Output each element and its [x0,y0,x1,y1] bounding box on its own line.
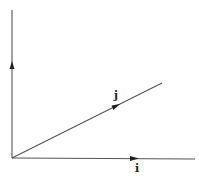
j-vector-line [12,83,162,158]
horizontal-axis [12,158,195,159]
vector-diagram: j i [0,0,199,186]
vertical-axis-arrowhead-icon [10,61,15,69]
horizontal-axis-arrowhead-icon [130,156,139,161]
j-label: j [113,89,118,102]
i-label: i [135,162,139,175]
j-vector-arrowhead-icon [112,104,121,110]
